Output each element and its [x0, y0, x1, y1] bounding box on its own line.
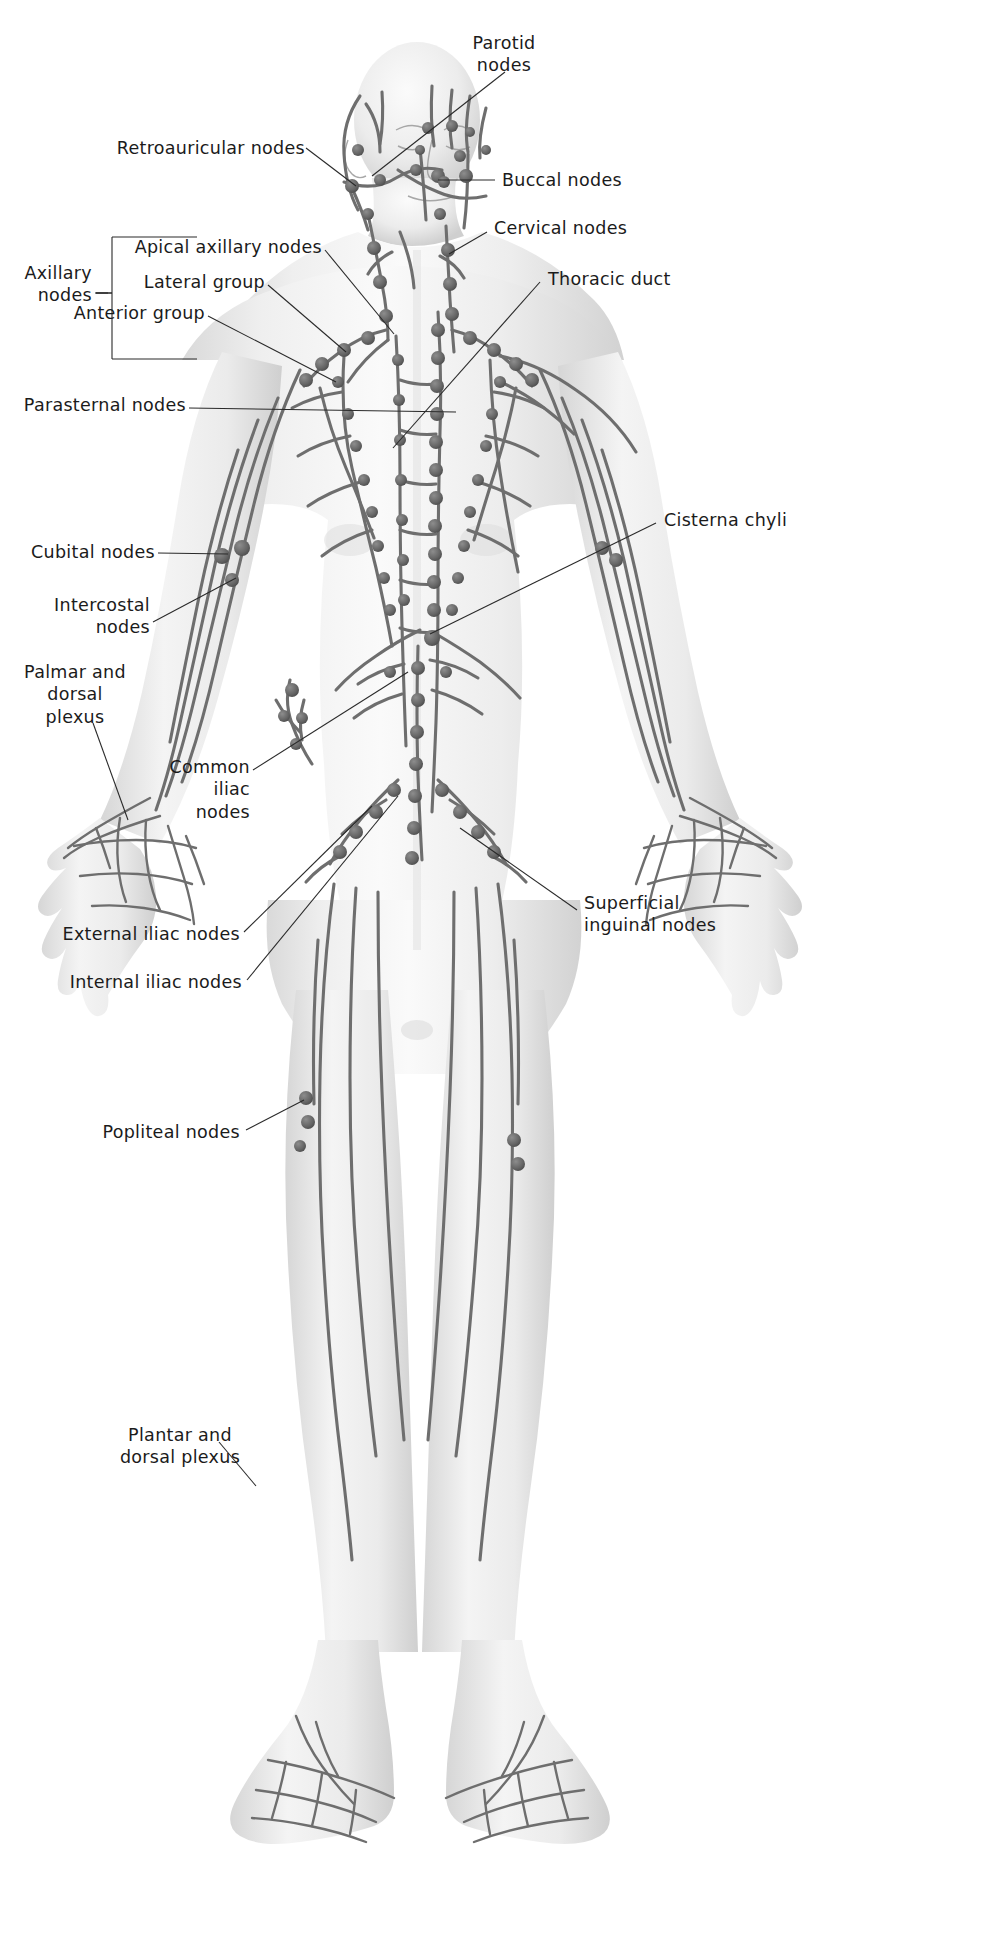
label-common-iliac-nodes: Common iliac nodes	[110, 756, 250, 823]
label-apical-axillary-nodes: Apical axillary nodes	[30, 236, 322, 258]
label-superficial-inguinal-nodes: Superficial inguinal nodes	[584, 892, 794, 937]
label-buccal-nodes: Buccal nodes	[502, 169, 702, 191]
label-plantar-dorsal-plexus: Plantar and dorsal plexus	[100, 1424, 260, 1469]
lymphatic-system-figure: Parotid nodes Retroauricular nodes Bucca…	[0, 0, 1005, 1935]
label-palmar-dorsal-plexus: Palmar and dorsal plexus	[10, 661, 140, 728]
label-parasternal-nodes: Parasternal nodes	[0, 394, 186, 416]
label-lateral-group: Lateral group	[30, 271, 265, 293]
leader-retroauricular-nodes	[306, 148, 356, 186]
label-cervical-nodes: Cervical nodes	[494, 217, 694, 239]
label-popliteal-nodes: Popliteal nodes	[60, 1121, 240, 1143]
label-internal-iliac-nodes: Internal iliac nodes	[30, 971, 242, 993]
label-cisterna-chyli: Cisterna chyli	[664, 509, 864, 531]
label-anterior-group: Anterior group	[30, 302, 205, 324]
label-external-iliac-nodes: External iliac nodes	[30, 923, 240, 945]
label-retroauricular-nodes: Retroauricular nodes	[50, 137, 305, 159]
label-intercostal-nodes: Intercostal nodes	[0, 594, 150, 639]
label-cubital-nodes: Cubital nodes	[0, 541, 155, 563]
label-parotid-nodes: Parotid nodes	[449, 32, 559, 77]
label-thoracic-duct: Thoracic duct	[548, 268, 748, 290]
